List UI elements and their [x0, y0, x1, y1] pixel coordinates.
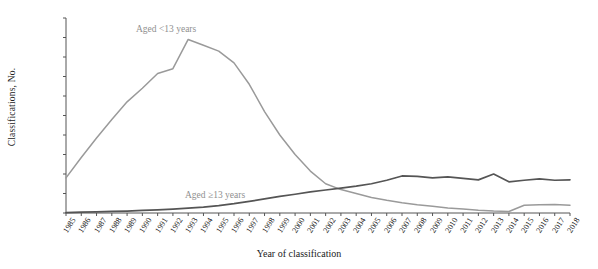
x-tick-label: 2008	[413, 216, 429, 235]
x-tick-label: 1996	[229, 216, 245, 235]
series-line-aged-under-13	[66, 39, 570, 211]
x-tick-label: 1990	[138, 216, 154, 235]
x-tick-label: 1985	[61, 216, 77, 235]
chart-figure: Classifications, No. 0100200300400500600…	[0, 0, 598, 269]
x-tick-label: 2018	[565, 216, 581, 235]
x-tick-label: 1998	[260, 216, 276, 235]
x-tick-label: 1997	[245, 216, 261, 235]
x-tick-label: 1999	[275, 216, 291, 235]
x-tick-label: 1993	[183, 216, 199, 235]
axis-lines	[66, 18, 570, 213]
x-tick-label: 2006	[382, 216, 398, 235]
x-tick-label: 2010	[443, 216, 459, 235]
x-tick-label: 1991	[153, 216, 169, 235]
x-tick-label: 2000	[290, 216, 306, 235]
x-tick-label: 1995	[214, 216, 230, 235]
x-tick-label: 2017	[550, 216, 566, 235]
x-tick-label: 1992	[168, 216, 184, 235]
y-axis-tick-labels: 01002003004005006007008009001,000	[0, 0, 62, 269]
series-annotation-aged-13-plus: Aged ≥13 years	[185, 190, 245, 200]
x-tick-label: 2012	[474, 216, 490, 235]
x-tick-label: 1987	[92, 216, 108, 235]
x-tick-label: 2011	[459, 216, 475, 234]
x-tick-label: 2005	[367, 216, 383, 235]
x-tick-label: 1986	[77, 216, 93, 235]
x-tick-label: 2002	[321, 216, 337, 235]
x-tick-label: 1988	[107, 216, 123, 235]
x-tick-label: 1994	[199, 216, 215, 235]
x-tick-label: 1989	[122, 216, 138, 235]
series-line-aged-13-plus	[66, 174, 570, 213]
x-tick-label: 2001	[306, 216, 322, 235]
plot-area	[66, 18, 570, 213]
x-tick-label: 2016	[535, 216, 551, 235]
series-annotation-aged-under-13: Aged <13 years	[136, 24, 196, 34]
x-axis-title: Year of classification	[0, 248, 598, 259]
x-tick-label: 2003	[336, 216, 352, 235]
plot-svg	[66, 18, 570, 213]
x-tick-label: 2015	[519, 216, 535, 235]
x-tick-label: 2004	[351, 216, 367, 235]
x-tick-label: 2013	[489, 216, 505, 235]
x-tick-label: 2009	[428, 216, 444, 235]
x-tick-label: 2014	[504, 216, 520, 235]
x-tick-label: 2007	[397, 216, 413, 235]
